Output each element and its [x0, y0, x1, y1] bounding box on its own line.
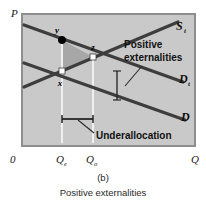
- curve-label-d: D: [180, 110, 190, 124]
- origin-label: 0: [10, 153, 16, 165]
- figure-caption: Positive externalities: [60, 187, 147, 198]
- point-x-marker: [59, 68, 65, 74]
- panel-letter: (b): [97, 172, 109, 183]
- point-x-label: x: [57, 78, 63, 88]
- curve-label-dt: D: [178, 72, 188, 86]
- positive-externalities-label-line2: externalities: [124, 52, 183, 63]
- underallocation-label: Underallocation: [96, 130, 172, 141]
- y-axis-label: P: [10, 7, 18, 19]
- xtick-qo-base: Q: [86, 153, 94, 165]
- curve-label-st: S: [176, 19, 183, 33]
- point-z-label: z: [90, 42, 95, 52]
- positive-externalities-figure: y z x S t D t D Positive externalities U…: [0, 0, 206, 201]
- x-axis-label: Q: [191, 153, 199, 165]
- xtick-qo-subscript: o: [94, 160, 98, 167]
- positive-externalities-label-line1: Positive: [124, 39, 163, 50]
- xtick-qe-base: Q: [56, 153, 64, 165]
- point-z-marker: [90, 54, 96, 60]
- xtick-qe-subscript: e: [64, 160, 67, 167]
- figure-canvas: y z x S t D t D Positive externalities U…: [0, 0, 206, 201]
- point-y-marker: [58, 36, 65, 43]
